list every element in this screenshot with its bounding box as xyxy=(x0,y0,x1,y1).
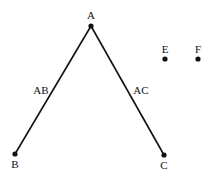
node-b xyxy=(12,151,17,156)
edge-ab xyxy=(15,26,91,154)
edge-ac xyxy=(91,26,164,155)
node-a-label: A xyxy=(87,9,95,21)
edge-ac-label: AC xyxy=(133,84,148,96)
node-c-label: C xyxy=(160,159,167,171)
edge-ab-label: AB xyxy=(33,84,48,96)
node-a xyxy=(88,23,93,28)
node-e-label: E xyxy=(162,43,169,55)
node-b-label: B xyxy=(11,158,18,170)
node-f-label: F xyxy=(195,43,201,55)
diagram-canvas: A B C E F AB AC xyxy=(0,0,215,185)
node-e xyxy=(162,56,167,61)
node-f xyxy=(195,56,200,61)
node-c xyxy=(161,152,166,157)
